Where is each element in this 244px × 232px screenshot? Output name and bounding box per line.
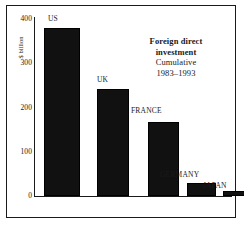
annotation-line-3: Cumulative xyxy=(124,57,228,68)
bar-label-uk: UK xyxy=(97,75,108,84)
y-tick-100: 100 xyxy=(8,148,32,156)
x-axis-line xyxy=(34,196,232,197)
bar-us xyxy=(44,28,80,196)
chart-figure: 400 300 200 100 0 $ billion US UK FRANCE… xyxy=(0,0,244,232)
y-axis-tick-labels: 400 300 200 100 0 $ billion xyxy=(4,0,32,232)
bar-label-germany: GERMANY xyxy=(160,170,199,179)
bar-label-us: US xyxy=(48,14,58,23)
annotation-line-1: Foreign direct xyxy=(124,36,228,47)
bar-france xyxy=(148,122,179,196)
bar-label-japan: JAPAN xyxy=(203,181,227,190)
annotation-line-4: 1983–1993 xyxy=(124,68,228,79)
y-tick-400: 400 xyxy=(8,15,32,23)
y-axis-title: $ billion xyxy=(17,26,24,70)
bar-label-france: FRANCE xyxy=(131,106,162,115)
bar-japan xyxy=(223,191,244,196)
chart-annotation: Foreign direct investment Cumulative 198… xyxy=(124,36,228,78)
annotation-line-2: investment xyxy=(124,47,228,58)
y-tick-0: 0 xyxy=(8,192,32,200)
y-tick-200: 200 xyxy=(8,104,32,112)
bar-uk xyxy=(97,89,129,196)
